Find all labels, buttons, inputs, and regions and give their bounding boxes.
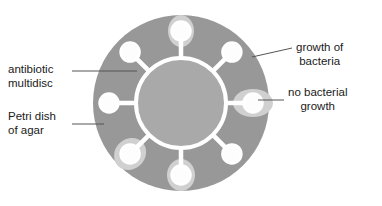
label-growth-of-bacteria: growth of bacteria (296, 41, 343, 68)
label-petri-dish-of-agar: Petri dish of agar (8, 110, 56, 137)
disc-bottom (172, 166, 191, 185)
disc-upper-left (121, 43, 140, 62)
disc-left (100, 94, 119, 113)
leader-growth-of-bacteria (252, 48, 292, 57)
label-petri-dish-line2: of agar (8, 124, 56, 138)
disc-lower-left (121, 144, 140, 163)
label-no-bacterial-growth-line2: growth (288, 100, 347, 114)
label-antibiotic-multidisc-line1: antibiotic (8, 63, 53, 75)
disc-upper-right (222, 43, 241, 62)
disc-lower-right (222, 144, 241, 163)
petri-dish-diagram: antibiotic multidisc Petri dish of agar … (0, 0, 382, 206)
label-antibiotic-multidisc: antibiotic multidisc (8, 63, 53, 90)
label-no-bacterial-growth: no bacterial growth (288, 86, 347, 113)
label-growth-of-bacteria-line1: growth of (296, 41, 343, 53)
label-growth-of-bacteria-line2: bacteria (296, 55, 343, 69)
label-antibiotic-multidisc-line2: multidisc (8, 77, 53, 91)
label-petri-dish-line1: Petri dish (8, 110, 56, 122)
multidisc-ring-outline (136, 58, 226, 148)
disc-right (244, 94, 263, 113)
label-no-bacterial-growth-line1: no bacterial (288, 86, 347, 98)
disc-top (172, 22, 191, 41)
